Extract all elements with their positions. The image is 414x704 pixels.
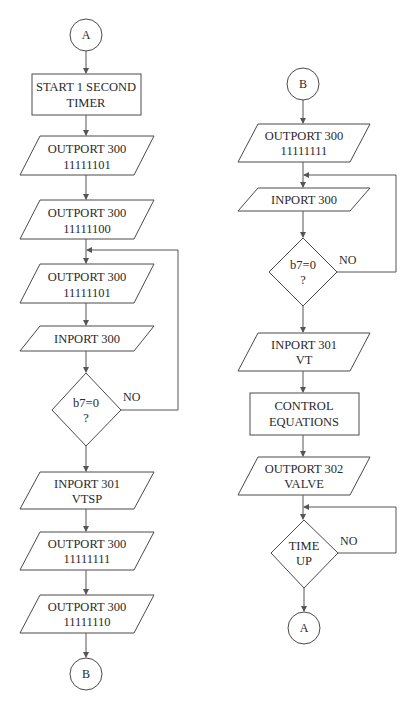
svg-text:OUTPORT 300: OUTPORT 300 [48,206,127,220]
svg-text:A: A [300,621,309,635]
right-decision-b7: b7=0 ? [269,238,337,306]
svg-text:OUTPORT 300: OUTPORT 300 [48,270,127,284]
svg-text:?: ? [300,273,306,287]
svg-text:UP: UP [296,554,312,568]
svg-text:11111111: 11111111 [64,552,111,566]
left-io-inport-301: INPORT 301 VTSP [20,472,154,509]
svg-text:A: A [82,28,91,42]
svg-text:OUTPORT 300: OUTPORT 300 [265,129,344,143]
svg-text:INPORT 300: INPORT 300 [54,332,120,346]
left-decision-no-label: NO [123,390,141,404]
left-decision-b7: b7=0 ? [52,373,121,446]
right-decision-no-label: NO [339,253,357,267]
right-io-outport-302: OUTPORT 302 VALVE [238,457,370,495]
svg-text:INPORT 301: INPORT 301 [54,477,120,491]
right-io-outport-1: OUTPORT 300 11111111 [238,124,370,162]
svg-text:11111111: 11111111 [281,144,328,158]
svg-text:INPORT 300: INPORT 300 [271,193,337,207]
svg-text:B: B [299,77,307,91]
right-decision-time-no-label: NO [340,534,358,548]
svg-text:TIMER: TIMER [67,96,107,110]
left-connector-a: A [70,19,102,51]
right-io-inport-300: INPORT 300 [238,188,370,211]
left-io-outport-1: OUTPORT 300 11111101 [20,136,154,175]
svg-text:b7=0: b7=0 [290,258,316,272]
svg-text:OUTPORT 300: OUTPORT 300 [48,600,127,614]
svg-text:11111100: 11111100 [63,222,111,236]
svg-text:11111101: 11111101 [63,286,111,300]
left-connector-b: B [70,658,102,690]
svg-text:VT: VT [296,353,313,367]
svg-text:11111110: 11111110 [63,615,110,629]
svg-text:OUTPORT 302: OUTPORT 302 [265,462,344,476]
left-io-inport-300: INPORT 300 [20,326,154,351]
left-io-outport-6: OUTPORT 300 11111111 [20,532,154,570]
right-decision-time-up: TIME UP [271,520,338,588]
left-io-outport-3: OUTPORT 300 11111101 [20,264,154,303]
right-connector-b: B [287,68,319,100]
svg-text:EQUATIONS: EQUATIONS [269,415,339,429]
svg-text:INPORT 301: INPORT 301 [271,338,337,352]
svg-text:VALVE: VALVE [284,477,324,491]
svg-text:OUTPORT 300: OUTPORT 300 [48,537,127,551]
flowchart: A START 1 SECOND TIMER OUTPORT 300 11111… [0,0,414,704]
svg-text:B: B [82,667,90,681]
svg-text:11111101: 11111101 [63,158,111,172]
svg-text:TIME: TIME [289,539,320,553]
svg-text:START 1 SECOND: START 1 SECOND [36,80,136,94]
svg-text:OUTPORT 300: OUTPORT 300 [48,142,127,156]
right-process-control: CONTROL EQUATIONS [250,393,359,435]
svg-text:?: ? [83,411,89,425]
right-io-inport-301: INPORT 301 VT [238,333,370,371]
svg-text:b7=0: b7=0 [73,396,99,410]
right-connector-a: A [288,612,320,644]
left-process-timer: START 1 SECOND TIMER [32,74,141,115]
svg-text:VTSP: VTSP [72,492,103,506]
left-io-outport-7: OUTPORT 300 11111110 [20,595,154,633]
svg-text:CONTROL: CONTROL [274,399,333,413]
left-io-outport-2: OUTPORT 300 11111100 [20,200,154,239]
